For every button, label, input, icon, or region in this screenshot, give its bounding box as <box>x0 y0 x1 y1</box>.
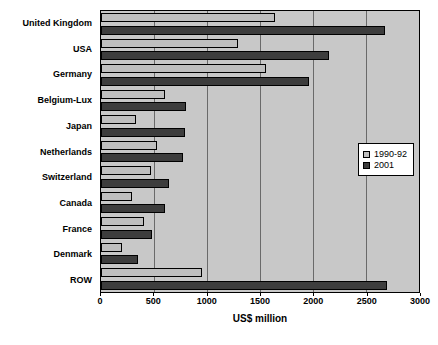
bar-1990-92 <box>101 115 136 124</box>
y-axis-label: Denmark <box>0 242 96 268</box>
bar-1990-92 <box>101 243 122 252</box>
y-axis-label: United Kingdom <box>0 10 96 36</box>
x-axis-tick-label: 1000 <box>197 296 217 306</box>
bar-1990-92 <box>101 64 266 73</box>
bar-row <box>101 190 419 216</box>
y-axis-label: ROW <box>0 267 96 293</box>
bar-1990-92 <box>101 13 275 22</box>
y-axis-label: Germany <box>0 61 96 87</box>
x-axis-tick-label: 2000 <box>303 296 323 306</box>
bar-row <box>101 113 419 139</box>
bar-row <box>101 88 419 114</box>
legend-swatch-icon <box>363 162 370 169</box>
bar-2001 <box>101 281 387 290</box>
x-axis-tick-label: 0 <box>97 296 102 306</box>
bar-2001 <box>101 26 385 35</box>
bar-2001 <box>101 255 138 264</box>
bar-1990-92 <box>101 90 165 99</box>
bar-row <box>101 215 419 241</box>
y-axis-label: Japan <box>0 113 96 139</box>
legend-label: 1990-92 <box>374 149 407 159</box>
bar-row <box>101 11 419 37</box>
bar-row <box>101 37 419 63</box>
x-axis-tick-label: 2500 <box>357 296 377 306</box>
bar-1990-92 <box>101 39 238 48</box>
y-axis-label: France <box>0 216 96 242</box>
legend-swatch-icon <box>363 151 370 158</box>
legend-item: 2001 <box>363 160 407 170</box>
x-axis-title: US$ million <box>100 313 420 324</box>
bar-row <box>101 62 419 88</box>
bar-2001 <box>101 128 185 137</box>
bar-1990-92 <box>101 217 144 226</box>
bar-1990-92 <box>101 166 151 175</box>
bar-2001 <box>101 230 152 239</box>
y-axis-label: Netherlands <box>0 139 96 165</box>
bar-2001 <box>101 77 309 86</box>
y-axis-label: USA <box>0 36 96 62</box>
y-axis-category-labels: United KingdomUSAGermanyBelgium-LuxJapan… <box>0 10 96 293</box>
bar-1990-92 <box>101 141 157 150</box>
bar-1990-92 <box>101 192 132 201</box>
x-axis-ticks: 050010001500200025003000 <box>100 296 420 310</box>
bar-2001 <box>101 51 329 60</box>
legend: 1990-922001 <box>358 143 414 176</box>
bar-chart: United KingdomUSAGermanyBelgium-LuxJapan… <box>0 0 438 345</box>
bar-row <box>101 241 419 267</box>
legend-label: 2001 <box>374 160 394 170</box>
bar-2001 <box>101 179 169 188</box>
y-axis-label: Belgium-Lux <box>0 87 96 113</box>
x-axis-tick-label: 1500 <box>250 296 270 306</box>
y-axis-label: Switzerland <box>0 164 96 190</box>
x-axis-tick-label: 3000 <box>410 296 430 306</box>
bar-2001 <box>101 153 183 162</box>
bar-1990-92 <box>101 268 202 277</box>
x-axis-tick-label: 500 <box>146 296 161 306</box>
legend-item: 1990-92 <box>363 149 407 159</box>
bar-row <box>101 266 419 292</box>
y-axis-label: Canada <box>0 190 96 216</box>
bar-2001 <box>101 102 186 111</box>
bar-2001 <box>101 204 165 213</box>
